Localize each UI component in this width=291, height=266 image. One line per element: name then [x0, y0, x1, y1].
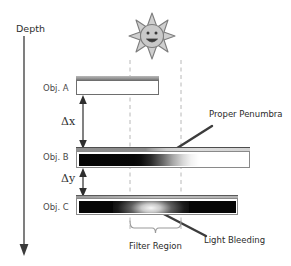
object-a-bar [76, 80, 159, 95]
object-c-shadow-fill [79, 201, 236, 213]
delta-y-label: Δy [61, 173, 75, 184]
delta-x-arrow [79, 95, 87, 149]
proper-penumbra-label: Proper Penumbra [209, 110, 283, 119]
object-b-penumbra-gradient [79, 154, 248, 166]
filter-region-brace [130, 221, 181, 233]
depth-axis-label: Depth [16, 24, 45, 34]
delta-y-arrow [79, 168, 87, 197]
object-c-bar [76, 198, 238, 215]
delta-x-label: Δx [61, 116, 75, 127]
filter-region-label: Filter Region [129, 242, 182, 251]
object-b-label: Obj. B [43, 153, 69, 162]
vector-layer [0, 0, 291, 266]
object-a-label: Obj. A [43, 84, 69, 93]
sun-icon [129, 13, 175, 59]
object-c-light-bleed-glow [113, 201, 189, 213]
figure-root: Depth Obj. A Obj. B Obj. C Δx Δy Proper … [0, 0, 291, 266]
object-b-bar [76, 151, 250, 168]
depth-axis-arrow [20, 36, 29, 256]
light-bleeding-label: Light Bleeding [204, 236, 265, 245]
object-c-label: Obj. C [43, 203, 69, 212]
